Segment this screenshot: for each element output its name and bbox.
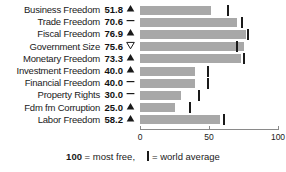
score-bar	[140, 115, 220, 124]
chart-row: Trade Freedom70.6	[0, 16, 286, 28]
score-bar	[140, 91, 181, 100]
category-label: Investment Freedom	[0, 65, 100, 77]
category-label: Financial Freedom	[0, 77, 100, 89]
value-label: 40.0	[101, 77, 123, 89]
freedom-scores-bar-chart: Business Freedom51.8Trade Freedom70.6Fis…	[0, 0, 286, 172]
world-average-marker	[247, 29, 249, 40]
trend-up-icon	[125, 65, 136, 77]
category-label: Fdm fm Corruption	[0, 102, 100, 114]
world-average-marker	[223, 114, 225, 125]
world-average-marker	[207, 66, 209, 77]
score-bar	[140, 18, 237, 27]
world-average-marker	[243, 53, 245, 64]
value-label: 25.0	[101, 102, 123, 114]
legend-world-average-text: = world average	[152, 151, 220, 162]
category-label: Trade Freedom	[0, 16, 100, 28]
score-bar	[140, 67, 195, 76]
legend-most-free-value: 100	[66, 151, 82, 162]
x-axis-tick-label: 50	[194, 132, 224, 142]
score-bar	[140, 30, 246, 39]
chart-row: Business Freedom51.8	[0, 4, 286, 16]
score-bar	[140, 54, 241, 63]
trend-up-icon	[125, 114, 136, 126]
x-axis-tick	[278, 126, 279, 130]
trend-up-icon	[125, 28, 136, 40]
category-label: Government Size	[0, 41, 100, 53]
trend-up-icon	[125, 102, 136, 114]
value-label: 76.9	[101, 28, 123, 40]
category-label: Labor Freedom	[0, 114, 100, 126]
category-label: Fiscal Freedom	[0, 28, 100, 40]
chart-row: Fiscal Freedom76.9	[0, 28, 286, 40]
value-label: 70.6	[101, 16, 123, 28]
chart-row: Property Rights30.0	[0, 89, 286, 101]
x-axis-tick-label: 0	[125, 132, 155, 142]
trend-up-icon	[125, 4, 136, 16]
score-bar	[140, 42, 244, 51]
legend-world-average-icon	[147, 151, 149, 161]
trend-down-icon	[125, 41, 136, 53]
chart-row: Monetary Freedom73.3	[0, 53, 286, 65]
chart-row: Investment Freedom40.0	[0, 65, 286, 77]
x-axis-tick-label: 100	[263, 132, 286, 142]
value-label: 51.8	[101, 4, 123, 16]
category-label: Property Rights	[0, 89, 100, 101]
score-bar	[140, 79, 195, 88]
world-average-marker	[198, 90, 200, 101]
category-label: Business Freedom	[0, 4, 100, 16]
trend-flat-icon	[125, 77, 136, 89]
value-label: 75.6	[101, 41, 123, 53]
category-label: Monetary Freedom	[0, 53, 100, 65]
x-axis-tick	[140, 126, 141, 130]
chart-legend: 100 = most free,= world average	[0, 150, 286, 164]
value-label: 30.0	[101, 89, 123, 101]
score-bar	[140, 103, 175, 112]
trend-up-icon	[125, 53, 136, 65]
world-average-marker	[207, 78, 209, 89]
value-label: 40.0	[101, 65, 123, 77]
score-bar	[140, 6, 211, 15]
chart-row: Government Size75.6	[0, 41, 286, 53]
value-label: 58.2	[101, 114, 123, 126]
trend-flat-icon	[125, 89, 136, 101]
world-average-marker	[241, 17, 243, 28]
chart-row: Labor Freedom58.2	[0, 114, 286, 126]
world-average-marker	[236, 41, 238, 52]
trend-flat-icon	[125, 16, 136, 28]
world-average-marker	[189, 102, 191, 113]
world-average-marker	[227, 5, 229, 16]
chart-row: Fdm fm Corruption25.0	[0, 102, 286, 114]
value-label: 73.3	[101, 53, 123, 65]
x-axis-tick	[209, 126, 210, 130]
chart-row: Financial Freedom40.0	[0, 77, 286, 89]
legend-most-free-text: = most free,	[85, 151, 135, 162]
